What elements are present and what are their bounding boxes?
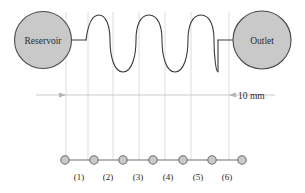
reservoir-vessel[interactable]: Reservoir <box>15 12 72 69</box>
node-label-1: (1) <box>74 172 85 182</box>
chain-node[interactable] <box>179 156 187 164</box>
chain-node[interactable] <box>208 156 216 164</box>
guide-lines-group <box>66 12 229 160</box>
dimension-arrow-right-icon <box>229 92 236 97</box>
reservoir-label: Reservoir <box>25 36 63 46</box>
node-label-5: (5) <box>193 172 204 182</box>
outlet-vessel[interactable]: Outlet <box>233 11 291 69</box>
node-label-2: (2) <box>103 172 114 182</box>
chain-node[interactable] <box>119 156 127 164</box>
serpentine-channel-figure: 10 mm Reservoir Outlet (1) (2) (3) <box>0 0 305 193</box>
dimension-label: 10 mm <box>238 91 265 101</box>
chain-node[interactable] <box>238 156 246 164</box>
dimension-arrow-left-icon <box>59 92 66 97</box>
outlet-label: Outlet <box>250 36 274 46</box>
node-label-4: (4) <box>163 172 174 182</box>
node-label-6: (6) <box>222 172 233 182</box>
dimension-line-group: 10 mm <box>36 91 275 101</box>
chain-node[interactable] <box>90 156 98 164</box>
node-chain-group: (1) (2) (3) (4) (5) (6) <box>61 156 246 182</box>
node-label-3: (3) <box>133 172 144 182</box>
channel-group <box>71 15 234 72</box>
channel-serpentine-wave <box>86 15 218 72</box>
chain-node[interactable] <box>149 156 157 164</box>
chain-node[interactable] <box>61 156 69 164</box>
